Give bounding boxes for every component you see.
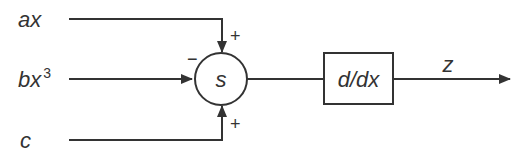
- sign-plus-bottom: +: [230, 114, 241, 134]
- block-diagram: ax + bx3 − c + s d/dx z: [0, 0, 529, 154]
- input-line-c: [69, 106, 222, 140]
- sign-plus-top: +: [230, 26, 241, 46]
- input-label-c: c: [20, 128, 31, 153]
- derivative-block-label: d/dx: [338, 67, 381, 92]
- output-label-z: z: [442, 52, 454, 77]
- input-label-ax: ax: [18, 7, 42, 32]
- sign-minus-left: −: [187, 49, 198, 69]
- input-line-ax: [69, 19, 222, 52]
- superscript: 3: [43, 65, 51, 81]
- input-label-bx3: bx3: [18, 65, 51, 92]
- summing-junction-label: s: [216, 67, 227, 92]
